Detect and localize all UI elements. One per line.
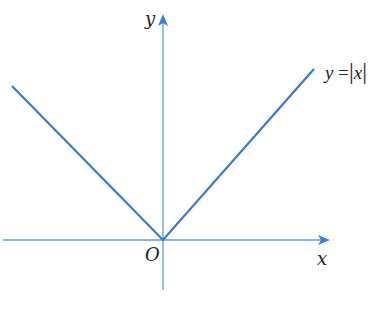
graph-svg <box>0 0 389 320</box>
origin-label: O <box>145 244 160 265</box>
x-axis-label: x <box>317 248 327 269</box>
abs-value-graph: y x O y =|x| <box>0 0 389 320</box>
abs-bar-right: | <box>362 62 367 81</box>
eq-y: y <box>325 62 333 83</box>
function-label: y =|x| <box>325 62 367 84</box>
eq-x: x <box>354 62 362 83</box>
eq-equals: = <box>338 62 349 83</box>
y-axis-label: y <box>145 8 155 29</box>
